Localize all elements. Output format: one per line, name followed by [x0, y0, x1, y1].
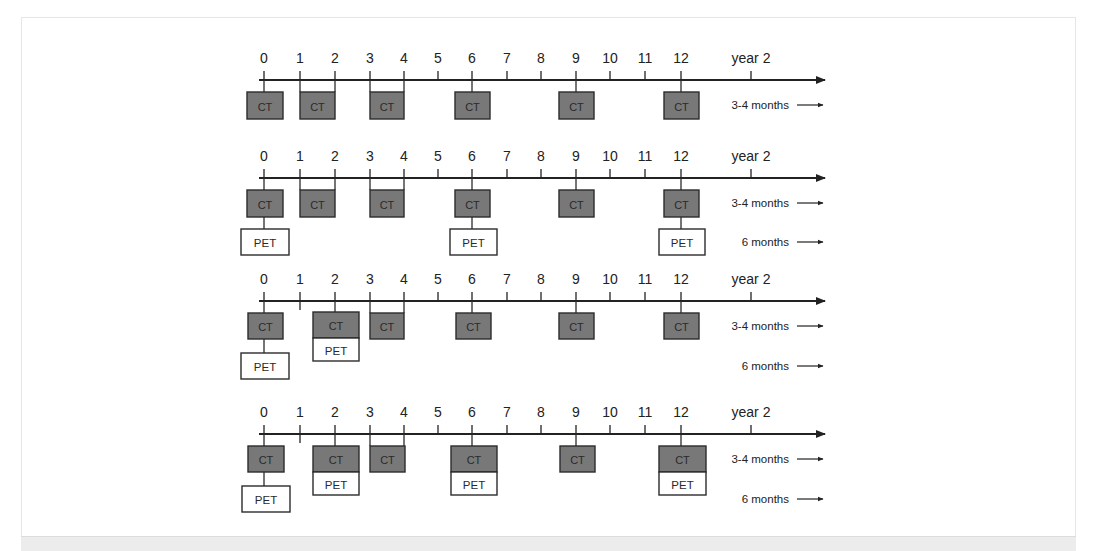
pet-scan-box: PET: [659, 217, 705, 255]
month-label-6: 6: [468, 148, 476, 164]
timeline-scheme-4: 0123456789101112year 2CTCTCTPETCTPETCTPE…: [242, 404, 825, 512]
ct-scan-box: CT: [559, 301, 594, 339]
pet-scan-box: PET: [241, 217, 289, 255]
month-label-1: 1: [296, 271, 304, 287]
month-label-8: 8: [537, 148, 545, 164]
month-label-9: 9: [572, 404, 580, 420]
ct-scan-box: CT: [370, 178, 404, 217]
pet-label: PET: [255, 494, 277, 506]
ct-label: CT: [465, 199, 480, 211]
month-label-10: 10: [602, 50, 618, 66]
month-label-1: 1: [296, 50, 304, 66]
month-label-0: 0: [260, 271, 268, 287]
month-label-11: 11: [638, 148, 653, 164]
month-label-0: 0: [260, 404, 268, 420]
pet-interval-label: 6 months: [742, 360, 790, 372]
month-label-8: 8: [537, 50, 545, 66]
month-label-0: 0: [260, 148, 268, 164]
ct-scan-box: CT: [370, 80, 404, 119]
month-label-10: 10: [602, 148, 618, 164]
ct-label: CT: [258, 199, 273, 211]
month-label-4: 4: [400, 148, 408, 164]
pet-label: PET: [463, 479, 485, 491]
month-label-9: 9: [572, 271, 580, 287]
ct-scan-box: CT: [664, 178, 699, 217]
ct-pet-combined-box: CTPET: [313, 434, 359, 495]
ct-label: CT: [329, 454, 344, 466]
month-label-1: 1: [296, 404, 304, 420]
ct-scan-box: CT: [300, 178, 335, 217]
month-label-3: 3: [366, 271, 374, 287]
month-label-2: 2: [331, 404, 339, 420]
month-label-4: 4: [400, 271, 408, 287]
month-label-4: 4: [400, 404, 408, 420]
pet-label: PET: [671, 237, 693, 249]
ct-label: CT: [675, 454, 690, 466]
month-label-1: 1: [296, 148, 304, 164]
month-label-5: 5: [434, 148, 442, 164]
ct-label: CT: [329, 320, 344, 332]
ct-label: CT: [569, 101, 584, 113]
month-label-7: 7: [503, 271, 511, 287]
month-label-12: 12: [673, 50, 689, 66]
month-label-11: 11: [638, 50, 653, 66]
pet-label: PET: [462, 237, 484, 249]
month-label-12: 12: [673, 271, 689, 287]
month-label-12: 12: [673, 148, 689, 164]
ct-label: CT: [258, 101, 273, 113]
ct-label: CT: [258, 321, 273, 333]
ct-scan-box: CT: [456, 301, 491, 339]
month-label-3: 3: [366, 50, 374, 66]
ct-interval-label: 3-4 months: [731, 453, 789, 465]
month-label-9: 9: [572, 148, 580, 164]
ct-scan-box: CT: [560, 434, 595, 472]
pet-label: PET: [325, 345, 347, 357]
month-label-6: 6: [468, 271, 476, 287]
year-2-label: year 2: [732, 271, 771, 287]
pet-label: PET: [671, 479, 693, 491]
ct-label: CT: [259, 454, 274, 466]
ct-scan-box: CT: [247, 80, 283, 119]
ct-scan-box: CT: [559, 178, 594, 217]
month-label-3: 3: [366, 148, 374, 164]
ct-label: CT: [380, 454, 395, 466]
month-label-5: 5: [434, 404, 442, 420]
month-label-11: 11: [638, 271, 653, 287]
month-label-7: 7: [503, 50, 511, 66]
ct-scan-box: CT: [300, 80, 335, 119]
pet-interval-label: 6 months: [742, 493, 790, 505]
month-label-2: 2: [331, 50, 339, 66]
year-2-label: year 2: [732, 148, 771, 164]
ct-pet-combined-box: CTPET: [451, 434, 497, 495]
year-2-label: year 2: [732, 50, 771, 66]
ct-scan-box: CT: [664, 301, 699, 339]
ct-scan-box: CT: [248, 434, 284, 472]
pet-scan-box: PET: [450, 217, 497, 255]
ct-pet-combined-box: CTPET: [313, 301, 359, 361]
ct-label: CT: [380, 101, 395, 113]
month-label-7: 7: [503, 148, 511, 164]
month-label-5: 5: [434, 50, 442, 66]
month-label-2: 2: [331, 271, 339, 287]
month-label-3: 3: [366, 404, 374, 420]
ct-scan-box: CT: [664, 80, 699, 119]
ct-interval-label: 3-4 months: [731, 197, 789, 209]
month-label-5: 5: [434, 271, 442, 287]
pet-scan-box: PET: [241, 339, 289, 379]
month-label-6: 6: [468, 50, 476, 66]
ct-label: CT: [380, 199, 395, 211]
ct-scan-box: CT: [455, 178, 490, 217]
timeline-scheme-1: 0123456789101112year 2CTCTCTCTCTCT3-4 mo…: [247, 50, 825, 119]
ct-scan-box: CT: [247, 178, 283, 217]
ct-label: CT: [466, 321, 481, 333]
month-label-10: 10: [602, 271, 618, 287]
month-label-2: 2: [331, 148, 339, 164]
month-label-11: 11: [638, 404, 653, 420]
month-label-7: 7: [503, 404, 511, 420]
ct-label: CT: [570, 454, 585, 466]
month-label-0: 0: [260, 50, 268, 66]
pet-scan-box: PET: [242, 472, 290, 512]
ct-label: CT: [465, 101, 480, 113]
ct-label: CT: [569, 321, 584, 333]
